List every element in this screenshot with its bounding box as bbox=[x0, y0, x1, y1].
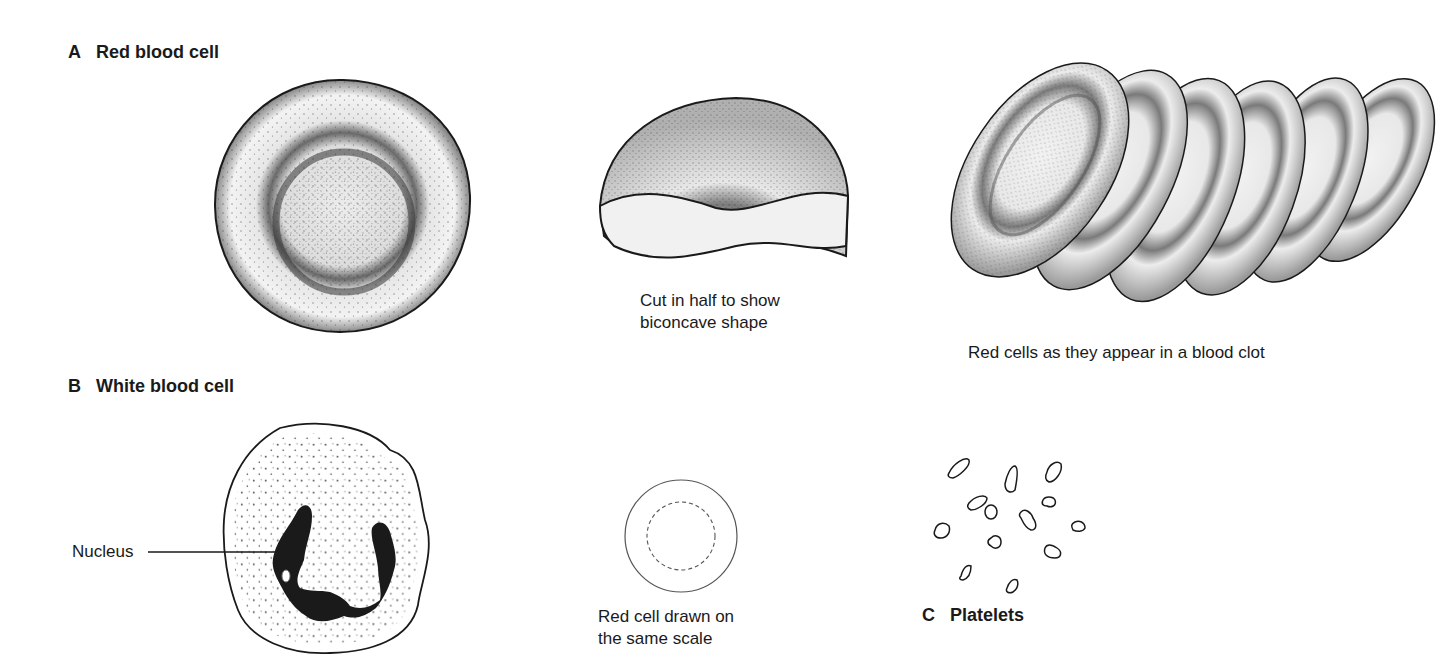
cross-section-caption-line2: biconcave shape bbox=[640, 312, 780, 334]
section-a-heading: ARed blood cell bbox=[68, 42, 219, 63]
platelets-illustration bbox=[925, 450, 1095, 600]
nucleus-label: Nucleus bbox=[72, 541, 133, 563]
section-a-letter: A bbox=[68, 42, 96, 63]
section-c-letter: C bbox=[922, 605, 950, 626]
red-blood-cell-cross-section bbox=[596, 96, 852, 268]
section-b-heading: BWhite blood cell bbox=[68, 376, 234, 397]
cross-section-caption: Cut in half to show biconcave shape bbox=[640, 290, 780, 334]
section-a-title: Red blood cell bbox=[96, 42, 219, 62]
section-b-title: White blood cell bbox=[96, 376, 234, 396]
section-c-title: Platelets bbox=[950, 605, 1024, 625]
red-cell-same-scale bbox=[624, 478, 738, 594]
red-blood-cell-top-view bbox=[212, 76, 474, 338]
cross-section-caption-line1: Cut in half to show bbox=[640, 290, 780, 312]
blood-clot-caption: Red cells as they appear in a blood clot bbox=[968, 342, 1265, 364]
section-c-heading: CPlatelets bbox=[922, 605, 1024, 626]
same-scale-caption: Red cell drawn on the same scale bbox=[598, 606, 734, 650]
same-scale-caption-line1: Red cell drawn on bbox=[598, 606, 734, 628]
nucleus-pointer-line bbox=[148, 550, 278, 554]
white-blood-cell bbox=[220, 420, 440, 656]
section-b-letter: B bbox=[68, 376, 96, 397]
same-scale-caption-line2: the same scale bbox=[598, 628, 734, 650]
red-cells-blood-clot bbox=[950, 60, 1440, 320]
